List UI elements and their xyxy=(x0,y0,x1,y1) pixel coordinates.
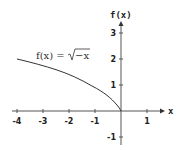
y-tick-label: 2 xyxy=(110,55,116,64)
y-axis-label: f(x) xyxy=(110,10,132,20)
function-curve xyxy=(17,59,121,111)
y-axis-arrow-icon xyxy=(119,21,124,26)
y-tick-label: 3 xyxy=(110,29,116,38)
x-tick-label: -3 xyxy=(39,117,48,126)
x-tick-label: -2 xyxy=(65,117,74,126)
x-axis-arrow-icon xyxy=(160,109,165,114)
svg-text:f(x) =: f(x) = xyxy=(36,50,65,61)
x-tick-label: 1 xyxy=(144,117,150,126)
x-tick-label: -4 xyxy=(13,117,22,126)
equation-annotation: f(x) = −x xyxy=(36,49,90,61)
y-tick-label: 1 xyxy=(110,81,116,90)
y-tick-label: -1 xyxy=(107,133,116,142)
svg-text:−x: −x xyxy=(75,50,89,61)
x-tick-label: -1 xyxy=(91,117,100,126)
chart: -4 -3 -2 -1 1 -1 1 2 3 x f(x) f(x) = −x xyxy=(0,0,177,150)
x-axis-label: x xyxy=(168,106,174,116)
